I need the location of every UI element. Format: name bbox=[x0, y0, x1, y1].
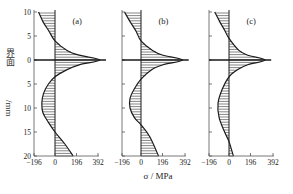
x-tick-label: 392 bbox=[267, 158, 279, 167]
panel-label: (c) bbox=[247, 16, 257, 26]
x-axis-title: σ / MPa bbox=[144, 171, 173, 181]
x-tick-label: −196 bbox=[114, 158, 130, 167]
x-tick-label: 0 bbox=[139, 158, 143, 167]
stress-curve bbox=[125, 12, 183, 156]
y-tick-label: 20 bbox=[24, 152, 32, 161]
y-axis-label-bottom: /mm bbox=[4, 100, 14, 117]
stress-curve bbox=[215, 12, 265, 156]
panel-label: (a) bbox=[73, 16, 83, 26]
stress-curve bbox=[39, 12, 100, 156]
hatch-fill bbox=[215, 13, 264, 156]
y-tick-label: 10 bbox=[24, 104, 32, 113]
y-tick-label: 10 bbox=[24, 8, 32, 17]
x-tick-label: 392 bbox=[179, 158, 191, 167]
chart-svg: −1960196392(a)−1960196392(b)−1960196392(… bbox=[0, 0, 293, 194]
x-tick-label: 0 bbox=[53, 158, 57, 167]
stress-distribution-figure: −1960196392(a)−1960196392(b)−1960196392(… bbox=[0, 0, 293, 194]
y-tick-label: 15 bbox=[24, 128, 32, 137]
x-tick-label: 392 bbox=[92, 158, 104, 167]
panel-label: (b) bbox=[159, 16, 169, 26]
x-tick-label: −196 bbox=[201, 158, 217, 167]
y-tick-label: 0 bbox=[27, 56, 31, 65]
panel-b: −1960196392(b) bbox=[114, 10, 191, 167]
x-tick-label: 196 bbox=[157, 158, 169, 167]
x-tick-label: 196 bbox=[245, 158, 257, 167]
y-tick-label: 5 bbox=[27, 80, 31, 89]
x-tick-label: 0 bbox=[227, 158, 231, 167]
panel-a: −1960196392(a) bbox=[26, 10, 106, 167]
y-axis-label-top: 界面 bbox=[4, 48, 17, 66]
panel-c: −1960196392(c) bbox=[201, 10, 279, 167]
y-tick-label: 5 bbox=[27, 32, 31, 41]
hatch-fill bbox=[125, 13, 182, 156]
x-tick-label: 196 bbox=[71, 158, 83, 167]
